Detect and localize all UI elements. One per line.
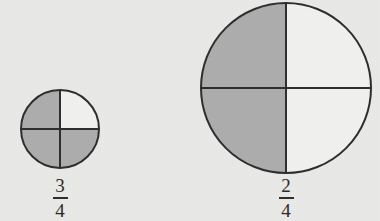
fraction-label-small: 3 4 [20,176,100,220]
quadrant-bottom-left-large [201,88,286,173]
quadrant-top-left-large [201,3,286,88]
fraction-numerator-large: 2 [281,176,291,196]
fraction-numerator-small: 3 [55,176,65,196]
fraction-figure-canvas: 3 4 2 4 [0,0,380,221]
quadrant-bottom-right-large [286,88,371,173]
pie-svg-large [200,2,372,174]
pie-svg-small [20,89,100,169]
fraction-denominator-small: 4 [55,200,65,220]
fraction-bar-large [279,197,294,199]
fraction-bar-small [53,197,68,199]
pie-circle-large [200,2,372,174]
fraction-label-large: 2 4 [200,176,372,220]
quadrant-top-right-large [286,3,371,88]
fraction-denominator-large: 4 [281,200,291,220]
fraction-figure-small [20,89,100,169]
pie-circle-small [20,89,100,169]
fraction-figure-large [200,2,372,174]
